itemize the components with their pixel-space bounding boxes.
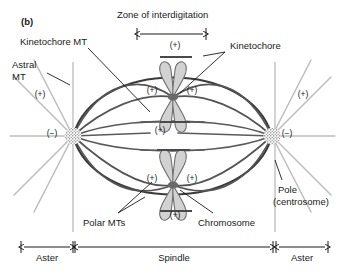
plus-top-interdigitation: (+) [170,40,181,50]
label-chromosome: Chromosome [198,217,255,228]
plus-lower-chromosome-right: (+) [187,173,198,183]
plus-upper-chromosome-right: (+) [187,85,198,95]
kinetochore-lower [168,181,178,188]
plus-astral-right: (+) [298,89,309,99]
scale-label-aster-right: Aster [291,252,313,263]
label-astral-mt-line1: Astral [12,59,36,70]
centrosome-stipple-right [263,127,280,144]
centrosome-stipple-left [64,127,81,144]
plus-upper-chromosome-left: (+) [147,85,158,95]
label-kinetochore: Kinetochore [230,40,281,51]
label-zone-of-interdigitation: Zone of interdigitation [117,9,208,20]
centrosome-left [64,127,81,144]
plus-astral-left: (+) [35,89,46,99]
mitotic-spindle-diagram: AsterSpindleAster (b) Zone of interdigit… [0,0,354,277]
plus-lower-chromosome-left: (+) [147,173,158,183]
label-polar-mts: Polar MTs [83,217,125,228]
minus-left-pole: (−) [47,128,58,138]
plus-polar-mid: (+) [155,125,166,135]
minus-right-pole: (−) [282,128,293,138]
label-kinetochore-mt: Kinetochore MT [20,36,87,47]
plus-bottom-interdigitation: (+) [170,210,181,220]
label-pole-line2: (centrosome) [273,196,329,207]
figure-canvas: AsterSpindleAster (b) Zone of interdigit… [0,0,354,277]
panel-label: (b) [21,16,33,27]
scale-label-spindle: Spindle [158,252,190,263]
label-astral-mt-line2: MT [12,71,26,82]
kinetochore-upper [168,93,178,100]
centrosome-right [263,127,280,144]
scale-label-aster-left: Aster [36,252,58,263]
label-pole-line1: Pole [278,184,297,195]
